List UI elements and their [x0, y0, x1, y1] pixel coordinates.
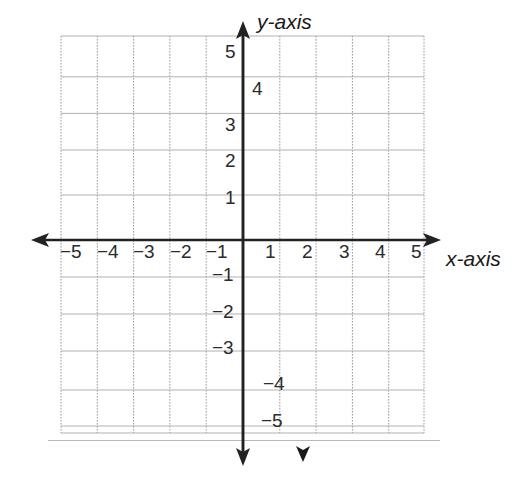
y-tick-label--1: −1 — [212, 265, 233, 284]
x-tick-label--4: −4 — [97, 242, 118, 261]
stray-chevron-mark — [296, 446, 310, 462]
y-tick-label--4: −4 — [263, 374, 284, 393]
x-tick-label-4: 4 — [375, 242, 385, 261]
x-tick-label-3: 3 — [339, 242, 349, 261]
x-tick-label-1: 1 — [265, 242, 275, 261]
y-tick-label--2: −2 — [212, 302, 233, 321]
x-axis-title: x-axis — [446, 248, 501, 269]
y-tick-label-4: 4 — [252, 79, 262, 98]
x-tick-label--3: −3 — [133, 242, 154, 261]
y-tick-label-1: 1 — [225, 188, 235, 207]
x-tick-label--5: −5 — [60, 242, 81, 261]
y-tick-label-2: 2 — [225, 151, 235, 170]
y-axis-line — [236, 21, 250, 466]
x-tick-label--2: −2 — [170, 242, 191, 261]
x-tick-label-5: 5 — [411, 242, 421, 261]
y-tick-label-3: 3 — [225, 115, 235, 134]
x-tick-label--1: −1 — [206, 242, 227, 261]
x-tick-label-2: 2 — [302, 242, 312, 261]
y-tick-label-5: 5 — [225, 42, 235, 61]
y-tick-label--5: −5 — [261, 411, 282, 430]
y-tick-label--3: −3 — [212, 338, 233, 357]
coordinate-plane-svg — [0, 0, 524, 479]
coordinate-plane-figure: −5 −4 −3 −2 −1 1 2 3 4 5 5 4 3 2 1 −1 −2… — [0, 0, 524, 479]
y-axis-title: y-axis — [257, 11, 312, 32]
